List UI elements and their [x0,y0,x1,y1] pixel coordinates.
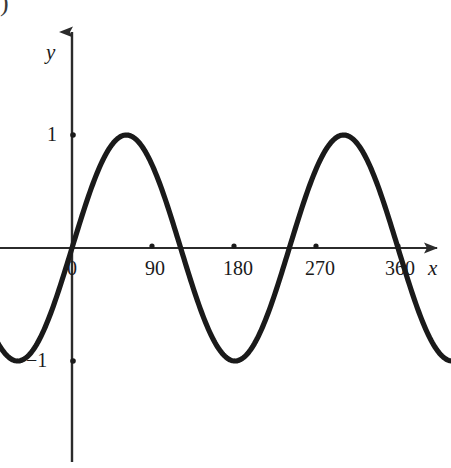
y-tick-label-negative-one: −1 [26,350,47,370]
x-tick-label-360: 360 [385,258,415,278]
y-tick-negative-one [70,358,76,364]
x-tick-label-270: 270 [305,258,335,278]
x-tick-label-90: 90 [145,258,165,278]
y-tick-label-positive-one: 1 [47,124,57,144]
y-axis-label: y [46,42,55,63]
x-tick-label-0: 0 [67,258,77,278]
figure-container: ) y x 0 90 180 270 360 1 −1 [0,0,451,468]
x-tick-label-180: 180 [223,258,253,278]
y-tick-positive-one [70,132,76,138]
x-axis-label: x [428,258,437,279]
x-tick-180 [231,243,236,248]
x-tick-270 [313,243,318,248]
sine-curve-plot [0,0,451,468]
x-tick-90 [149,243,154,248]
